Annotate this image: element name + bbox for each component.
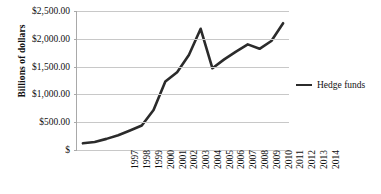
x-axis-tick-label: 1999 [154, 150, 164, 194]
x-axis-tick-label: 2011 [295, 150, 305, 194]
y-axis-tick-label: $ [65, 145, 70, 155]
y-axis-tick [74, 94, 77, 95]
y-axis-tick [74, 122, 77, 123]
chart-legend: Hedge funds [296, 80, 365, 90]
gridline [77, 122, 289, 123]
x-axis-tick-label: 2007 [248, 150, 258, 194]
gridline [77, 11, 289, 12]
y-axis-tick-label: $1,000.00 [32, 89, 70, 99]
y-axis-tick-label: $1,500.00 [32, 62, 70, 72]
x-axis-tick-label: 2006 [236, 150, 246, 194]
x-axis-tick-label: 2009 [272, 150, 282, 194]
x-axis-tick-label: 1997 [130, 150, 140, 194]
y-axis-tick [74, 67, 77, 68]
x-axis-tick-labels: 1997199819992000200120022003200420052006… [76, 150, 288, 194]
x-axis-tick-label: 2003 [201, 150, 211, 194]
legend-label-hedge-funds: Hedge funds [317, 80, 365, 90]
y-axis-tick-label: $2,000.00 [32, 34, 70, 44]
gridline [77, 94, 289, 95]
x-axis-tick-label: 2013 [319, 150, 329, 194]
x-axis-tick-label: 2005 [225, 150, 235, 194]
x-axis-tick-label: 2004 [213, 150, 223, 194]
plot-area [76, 11, 288, 150]
x-axis-tick-label: 2010 [284, 150, 294, 194]
series-line-hedge-funds [77, 11, 289, 150]
x-axis-tick-label: 2001 [178, 150, 188, 194]
x-axis-tick-label: 1998 [142, 150, 152, 194]
y-axis-tick [74, 39, 77, 40]
x-axis-tick-label: 2014 [331, 150, 341, 194]
y-axis-tick-label: $2,500.00 [32, 6, 70, 16]
x-axis-tick-label: 2002 [189, 150, 199, 194]
chart-figure: Billions of dollars $$500.00$1,000.00$1,… [0, 0, 381, 194]
x-axis-tick-label: 2000 [166, 150, 176, 194]
x-axis-tick-label: 2012 [307, 150, 317, 194]
gridline [77, 67, 289, 68]
y-axis-tick [74, 11, 77, 12]
y-axis-tick-labels: $$500.00$1,000.00$1,500.00$2,000.00$2,50… [0, 0, 73, 194]
gridline [77, 39, 289, 40]
x-axis-tick-label: 2008 [260, 150, 270, 194]
y-axis-tick-label: $500.00 [39, 117, 70, 127]
legend-line-swatch-hedge-funds [296, 84, 312, 87]
